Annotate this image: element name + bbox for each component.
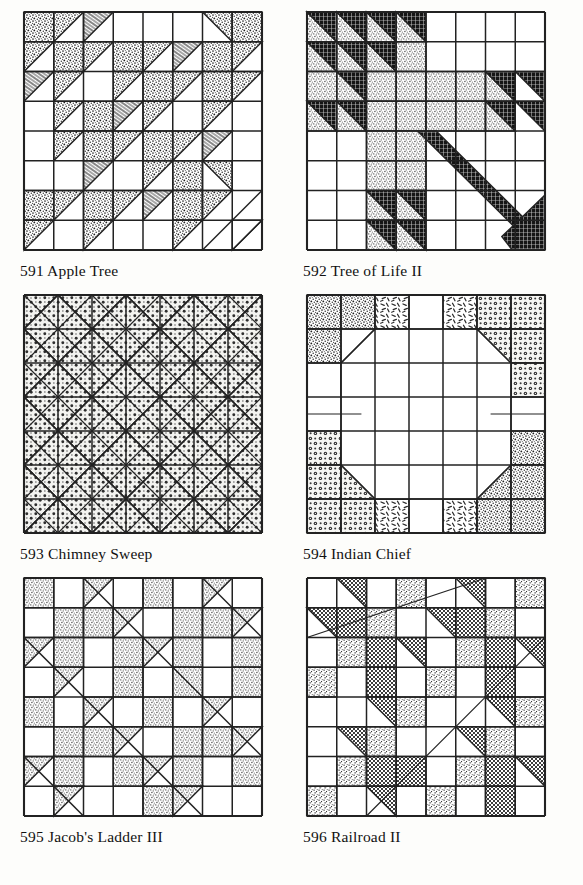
block-caption-594: 594 Indian Chief	[303, 545, 565, 563]
block-caption-592: 592 Tree of Life II	[303, 262, 565, 280]
block-caption-596: 596 Railroad II	[303, 828, 565, 846]
block-svg-591	[20, 8, 266, 252]
block-svg-592	[303, 8, 549, 252]
block-figure-592: 592 Tree of Life II	[303, 8, 565, 291]
block-svg-594	[303, 291, 549, 535]
block-diagram-591	[20, 8, 266, 252]
block-diagram-595	[20, 574, 266, 818]
block-diagram-593	[20, 291, 266, 535]
block-figure-594: 594 Indian Chief	[303, 291, 565, 574]
block-figure-591: 591 Apple Tree	[20, 8, 282, 291]
quilt-plate-page: 591 Apple Tree	[0, 0, 583, 885]
block-svg-593	[20, 291, 266, 535]
block-svg-595	[20, 574, 266, 818]
block-caption-595: 595 Jacob's Ladder III	[20, 828, 282, 846]
block-diagram-596	[303, 574, 549, 818]
block-diagram-592	[303, 8, 549, 252]
block-diagram-594	[303, 291, 549, 535]
block-svg-596	[303, 574, 549, 818]
block-figure-593: 593 Chimney Sweep	[20, 291, 282, 574]
block-figure-595: 595 Jacob's Ladder III	[20, 574, 282, 857]
block-figure-596: 596 Railroad II	[303, 574, 565, 857]
block-caption-593: 593 Chimney Sweep	[20, 545, 282, 563]
block-caption-591: 591 Apple Tree	[20, 262, 282, 280]
